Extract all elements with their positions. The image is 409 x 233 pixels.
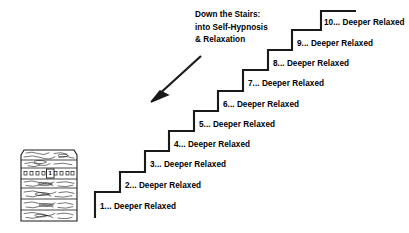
heading-line-1: Down the Stairs: xyxy=(195,9,268,22)
step-label-7: 7... Deeper Relaxed xyxy=(248,79,324,88)
step-label-10: 10... Deeper Relaxed xyxy=(324,18,405,27)
step-label-6: 6... Deeper Relaxed xyxy=(223,100,299,109)
step-label-3: 3... Deeper Relaxed xyxy=(150,160,226,169)
step-label-8: 8... Deeper Relaxed xyxy=(273,59,349,68)
step-label-9: 9... Deeper Relaxed xyxy=(297,39,373,48)
diagram-heading: Down the Stairs: into Self-Hypnosis & Re… xyxy=(195,9,268,47)
house-door-number: 1 xyxy=(47,170,55,176)
brick-house-illustration xyxy=(21,150,77,221)
arrow-shaft xyxy=(156,56,201,97)
step-label-2: 2... Deeper Relaxed xyxy=(125,181,201,190)
arrow-head xyxy=(151,91,168,102)
heading-line-3: & Relaxation xyxy=(195,34,268,47)
down-left-arrow xyxy=(151,56,201,102)
stairs-diagram-canvas: Down the Stairs: into Self-Hypnosis & Re… xyxy=(0,0,409,233)
step-label-4: 4... Deeper Relaxed xyxy=(174,140,250,149)
step-label-1: 1... Deeper Relaxed xyxy=(100,202,176,211)
heading-line-2: into Self-Hypnosis xyxy=(195,22,268,35)
step-label-5: 5... Deeper Relaxed xyxy=(199,120,275,129)
